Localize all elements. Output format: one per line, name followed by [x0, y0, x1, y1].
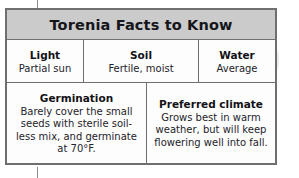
fact-value-water: Average	[216, 62, 257, 75]
table-title: Torenia Facts to Know	[49, 17, 232, 33]
basics-row: Light Partial sun Soil Fertile, moist Wa…	[7, 40, 275, 83]
fact-label-water: Water	[219, 49, 255, 62]
fact-label-light: Light	[30, 49, 60, 62]
fact-label-soil: Soil	[130, 49, 152, 62]
fact-value-preferred-climate: Grows best in warm weather, but will kee…	[152, 112, 270, 150]
page-rule-artifact-top	[37, 0, 38, 8]
fact-cell-water: Water Average	[199, 40, 275, 82]
fact-value-light: Partial sun	[19, 62, 72, 75]
fact-cell-germination: Germination Barely cover the small seeds…	[7, 83, 147, 163]
fact-label-germination: Germination	[40, 91, 113, 105]
table-header: Torenia Facts to Know	[7, 10, 275, 40]
page-rule-artifact-bottom	[37, 167, 38, 178]
fact-cell-soil: Soil Fertile, moist	[84, 40, 199, 82]
torenia-facts-table: Torenia Facts to Know Light Partial sun …	[5, 8, 277, 165]
details-row: Germination Barely cover the small seeds…	[7, 83, 275, 163]
fact-cell-preferred-climate: Preferred climate Grows best in warm wea…	[147, 83, 275, 163]
fact-label-preferred-climate: Preferred climate	[159, 97, 263, 111]
fact-cell-light: Light Partial sun	[7, 40, 84, 82]
fact-value-soil: Fertile, moist	[108, 62, 173, 75]
fact-value-germination: Barely cover the small seeds with steril…	[12, 106, 141, 156]
